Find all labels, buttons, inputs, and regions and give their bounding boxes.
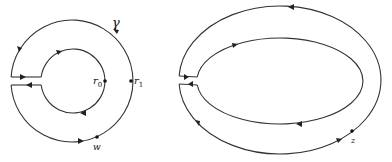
arrow-icon (184, 74, 189, 80)
arrow-icon (288, 4, 294, 10)
left-keyhole-contour: γ r0 r1 w (11, 15, 143, 152)
label-w: w (93, 142, 101, 152)
arrow-icon (78, 138, 84, 144)
label-r1: r1 (134, 75, 143, 89)
outer-circle-left (11, 20, 133, 142)
point-r0 (103, 79, 107, 83)
arrow-icon (26, 82, 32, 88)
label-r0: r0 (93, 75, 102, 89)
label-gamma: γ (112, 15, 120, 30)
point-r1 (129, 79, 133, 83)
label-z: z (350, 136, 356, 145)
point-w (95, 135, 99, 139)
arrow-icon (296, 121, 302, 127)
right-keyhole-contour: z (179, 4, 381, 154)
slit-lower-right (179, 84, 197, 85)
inner-ellipse-right (197, 38, 363, 124)
arrow-icon (20, 74, 26, 80)
contour-diagram: γ r0 r1 w z (0, 0, 392, 162)
point-z (350, 129, 354, 133)
arrow-icon (188, 81, 193, 87)
